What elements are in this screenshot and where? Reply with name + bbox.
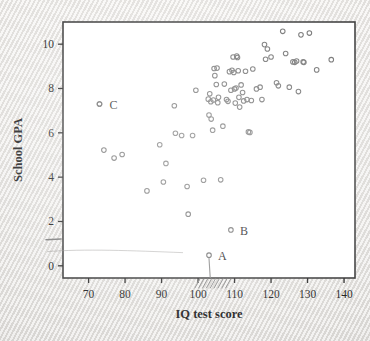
x-tick-label: 70	[83, 288, 95, 300]
y-axis: 0246810	[43, 38, 64, 272]
y-tick-label: 6	[48, 127, 54, 139]
point-label-b: B	[240, 224, 248, 238]
x-tick-label: 100	[189, 288, 207, 300]
y-tick-label: 4	[48, 171, 54, 183]
x-tick-label: 110	[226, 288, 243, 300]
y-tick-label: 10	[43, 38, 55, 50]
y-tick-label: 0	[48, 260, 54, 272]
plot-area-background	[63, 22, 355, 278]
x-tick-label: 130	[299, 288, 317, 300]
scatter-plot-figure: 708090100110120130140IQ test score024681…	[0, 0, 370, 341]
y-tick-label: 2	[48, 215, 54, 227]
x-axis-title: IQ test score	[175, 307, 243, 321]
y-axis-title: School GPA	[11, 118, 25, 182]
point-label-c: C	[110, 98, 118, 112]
point-label-a: A	[218, 249, 227, 263]
y-tick-label: 8	[48, 82, 54, 94]
chart-svg: 708090100110120130140IQ test score024681…	[0, 0, 370, 341]
x-tick-label: 80	[119, 288, 131, 300]
x-tick-label: 140	[335, 288, 353, 300]
annotation-margin-tick	[46, 239, 61, 240]
x-tick-label: 120	[262, 288, 280, 300]
x-tick-label: 90	[156, 288, 168, 300]
